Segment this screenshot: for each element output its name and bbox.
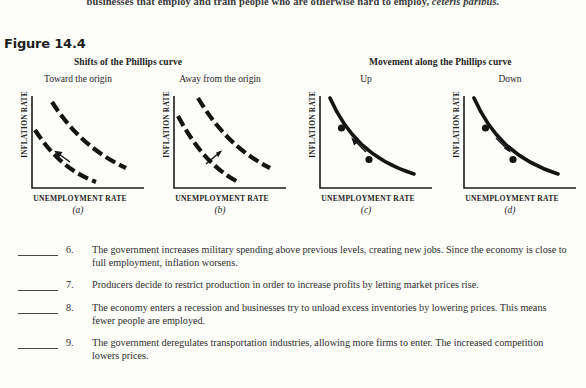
panel-c-curve [330, 98, 414, 174]
chart-panel-d: Down INFLATION RATE UNEMPLOYMENT RATE (d… [440, 74, 580, 224]
panel-b-svg [150, 90, 290, 208]
panel-c-letter: (c) [296, 205, 436, 215]
question-text-6: The government increases military spendi… [92, 243, 586, 269]
answer-blank-9[interactable] [18, 337, 58, 349]
question-number-6: 6. [66, 243, 92, 256]
panel-a-y-axis-label: INFLATION RATE [20, 85, 29, 165]
cutoff-header-italic: ceteris paribus. [432, 0, 500, 7]
question-text-8: The economy enters a recession and busin… [92, 301, 586, 327]
panel-a-x-axis-label: UNEMPLOYMENT RATE [16, 194, 144, 203]
list-item: 7. Producers decide to restrict producti… [0, 278, 586, 291]
panel-d-point-lower [509, 156, 516, 163]
question-number-9: 9. [66, 336, 92, 349]
cutoff-header-plain: businesses that employ and train people … [87, 0, 432, 7]
panel-d-y-axis-label: INFLATION RATE [452, 85, 461, 165]
panel-d-letter: (d) [440, 205, 580, 215]
question-number-7: 7. [66, 278, 92, 291]
panel-b-letter: (b) [150, 205, 290, 215]
panel-b-x-axis-label: UNEMPLOYMENT RATE [158, 194, 286, 203]
panel-a-curve-original [52, 102, 126, 168]
panel-d-plot: INFLATION RATE UNEMPLOYMENT RATE [440, 90, 580, 208]
panel-a-curve-shifted [35, 130, 96, 182]
panel-a-svg [8, 90, 148, 208]
question-text-9: The government deregulates transportatio… [92, 336, 586, 362]
panel-c-plot: INFLATION RATE UNEMPLOYMENT RATE [296, 90, 436, 208]
panel-c-x-axis-label: UNEMPLOYMENT RATE [304, 194, 432, 203]
list-item: 8. The economy enters a recession and bu… [0, 301, 586, 327]
panel-d-curve [474, 98, 558, 174]
panel-a-plot: INFLATION RATE UNEMPLOYMENT RATE [8, 90, 148, 208]
panel-a-letter: (a) [8, 205, 148, 215]
answer-blank-8[interactable] [18, 302, 58, 314]
panel-c-y-axis-label: INFLATION RATE [308, 85, 317, 165]
chart-panel-a: Toward the origin INFLATION RATE UNEMPLO… [8, 74, 148, 224]
list-item: 6. The government increases military spe… [0, 243, 586, 269]
textbook-page: businesses that employ and train people … [0, 0, 586, 388]
panel-d-title: Down [440, 74, 580, 84]
panel-b-title: Away from the origin [150, 74, 290, 84]
panel-a-title: Toward the origin [8, 74, 148, 84]
question-number-8: 8. [66, 301, 92, 314]
chart-panel-c: Up INFLATION RATE UNEMPLOYMENT RATE (c) [296, 74, 436, 224]
panel-c-point-lower [365, 156, 372, 163]
panel-d-point-upper [482, 124, 489, 131]
panel-d-svg [440, 90, 580, 208]
group-title-movement: Movement along the Phillips curve [369, 57, 512, 67]
cutoff-header-text: businesses that employ and train people … [0, 0, 586, 8]
chart-panel-b: Away from the origin INFLATION RATE UNEM… [150, 74, 290, 224]
panel-c-point-upper [338, 124, 345, 131]
question-text-7: Producers decide to restrict production … [92, 278, 586, 291]
list-item: 9. The government deregulates transporta… [0, 336, 586, 362]
panel-d-x-axis-label: UNEMPLOYMENT RATE [448, 194, 576, 203]
group-title-shifts: Shifts of the Phillips curve [74, 57, 182, 67]
figure-label: Figure 14.4 [4, 36, 86, 51]
answer-blank-6[interactable] [18, 244, 58, 256]
panel-b-y-axis-label: INFLATION RATE [162, 85, 171, 165]
answer-blank-7[interactable] [18, 279, 58, 291]
panel-b-plot: INFLATION RATE UNEMPLOYMENT RATE [150, 90, 290, 208]
panel-c-title: Up [296, 74, 436, 84]
panel-b-curve-original [178, 116, 238, 182]
question-list: 6. The government increases military spe… [0, 243, 586, 371]
panel-c-svg [296, 90, 436, 208]
